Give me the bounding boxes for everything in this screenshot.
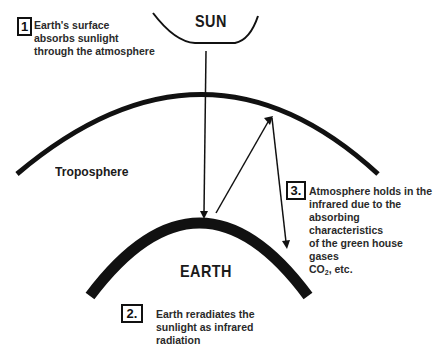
- step-1-badge: 1: [17, 17, 32, 36]
- co2-prefix: CO: [309, 263, 325, 275]
- step-2-line: Earth reradiates the: [156, 308, 255, 321]
- infrared-down-arrowhead-icon: [282, 240, 290, 249]
- co2-suffix: , etc.: [329, 263, 353, 275]
- earth-label: EARTH: [180, 262, 232, 282]
- step-3-line: of the green house gases: [309, 237, 433, 263]
- step-3-text: Atmosphere holds in the infrared due to …: [309, 185, 433, 279]
- sunlight-arrow: [204, 51, 206, 212]
- infrared-up-arrow: [216, 122, 268, 213]
- step-1-line: absorbs sunlight: [34, 32, 155, 45]
- step-3-line-co2: CO2, etc.: [309, 263, 433, 279]
- step-3-line: Atmosphere holds in the: [309, 185, 433, 198]
- step-2-badge: 2.: [121, 304, 143, 323]
- atmosphere-arc: [17, 95, 378, 175]
- step-2-text: Earth reradiates the sunlight as infrare…: [156, 308, 255, 347]
- infrared-down-arrow: [272, 118, 286, 242]
- troposphere-label: Troposphere: [55, 164, 129, 179]
- step-3-line: infrared due to the: [309, 198, 433, 211]
- step-1-text: Earth's surface absorbs sunlight through…: [34, 19, 155, 58]
- sun-label: SUN: [195, 12, 227, 32]
- step-3-badge: 3.: [286, 181, 306, 200]
- step-3-line: absorbing characteristics: [309, 211, 433, 237]
- step-1-line: Earth's surface: [34, 19, 155, 32]
- earth-arc: [90, 223, 308, 296]
- step-2-line: radiation: [156, 334, 255, 347]
- step-1-line: through the atmosphere: [34, 45, 155, 58]
- step-2-line: sunlight as infrared: [156, 321, 255, 334]
